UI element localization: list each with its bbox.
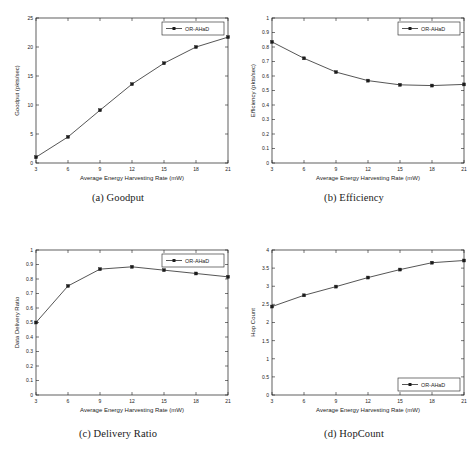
y-tick-label: 10 [27, 102, 33, 108]
y-tick-label: 0.4 [26, 334, 33, 340]
data-point-marker [227, 36, 230, 39]
plot-delivery-ratio: 3691215182100.10.20.30.40.50.60.70.80.91… [0, 232, 236, 428]
legend-marker-icon [409, 383, 412, 386]
x-tick-label: 9 [335, 166, 338, 172]
data-point-marker [35, 156, 38, 159]
y-tick-label: 15 [27, 73, 33, 79]
x-tick-label: 6 [303, 166, 306, 172]
y-tick-label: 0.3 [26, 348, 33, 354]
x-tick-label: 3 [35, 166, 38, 172]
x-tick-label: 12 [365, 398, 371, 404]
data-point-marker [431, 261, 434, 264]
plot-frame [272, 18, 464, 163]
x-tick-label: 3 [35, 398, 38, 404]
x-tick-label: 18 [193, 166, 199, 172]
data-point-marker [463, 83, 466, 86]
legend-label: OR-AHaD [421, 382, 445, 388]
x-tick-label: 18 [429, 166, 435, 172]
x-tick-label: 9 [335, 398, 338, 404]
x-tick-label: 9 [99, 398, 102, 404]
y-tick-label: 0.1 [26, 377, 33, 383]
y-tick-label: 1.5 [262, 338, 269, 344]
x-tick-label: 18 [193, 398, 199, 404]
series-line [36, 37, 228, 157]
panel-delivery-ratio: 3691215182100.10.20.30.40.50.60.70.80.91… [0, 232, 236, 467]
y-tick-label: 1 [266, 15, 269, 21]
y-tick-label: 0.8 [262, 44, 269, 50]
y-tick-label: 0 [30, 160, 33, 166]
y-tick-label: 3.5 [262, 265, 269, 271]
y-tick-label: 0.6 [26, 305, 33, 311]
y-tick-label: 0.9 [262, 29, 269, 35]
data-point-marker [67, 284, 70, 287]
x-tick-label: 15 [397, 398, 403, 404]
y-tick-label: 1 [266, 356, 269, 362]
data-point-marker [271, 40, 274, 43]
y-tick-label: 0.1 [262, 145, 269, 151]
chart-legend[interactable]: OR-AHaD [398, 378, 460, 391]
data-point-marker [399, 268, 402, 271]
y-tick-label: 4 [266, 247, 269, 253]
y-tick-label: 0 [266, 160, 269, 166]
data-point-marker [335, 285, 338, 288]
plot-frame [272, 250, 464, 395]
data-point-marker [463, 259, 466, 262]
plot-efficiency: 3691215182100.10.20.30.40.50.60.70.80.91… [236, 0, 472, 196]
x-axis-title: Average Energy Harvesting Rate (mW) [80, 407, 184, 413]
y-tick-label: 0.7 [26, 290, 33, 296]
y-tick-label: 0.3 [262, 116, 269, 122]
y-tick-label: 0 [266, 392, 269, 398]
y-tick-label: 1 [30, 247, 33, 253]
x-tick-label: 15 [161, 166, 167, 172]
panel-goodput: 369121518210510152025Average Energy Harv… [0, 0, 236, 235]
chart-legend[interactable]: OR-AHaD [162, 254, 224, 267]
chart-svg: 3691215182100.10.20.30.40.50.60.70.80.91… [236, 0, 472, 196]
y-tick-label: 0.2 [262, 131, 269, 137]
x-tick-label: 21 [225, 398, 231, 404]
caption-goodput: (a) Goodput [0, 192, 236, 203]
y-tick-label: 5 [30, 131, 33, 137]
y-axis-title: Goodput (pkts/sec) [14, 65, 20, 116]
y-tick-label: 0.9 [26, 261, 33, 267]
data-point-marker [399, 83, 402, 86]
data-point-marker [367, 79, 370, 82]
x-axis-title: Average Energy Harvesting Rate (mW) [316, 175, 420, 181]
y-tick-label: 25 [27, 15, 33, 21]
x-tick-label: 15 [397, 166, 403, 172]
chart-legend[interactable]: OR-AHaD [162, 22, 224, 35]
x-axis-title: Average Energy Harvesting Rate (mW) [316, 407, 420, 413]
chart-legend[interactable]: OR-AHaD [398, 22, 460, 35]
y-tick-label: 2.5 [262, 301, 269, 307]
x-tick-label: 21 [461, 398, 467, 404]
x-tick-label: 21 [225, 166, 231, 172]
x-tick-label: 6 [303, 398, 306, 404]
figure-grid: 369121518210510152025Average Energy Harv… [0, 0, 473, 470]
plot-hopcount: 3691215182100.511.522.533.54Average Ener… [236, 232, 472, 428]
data-point-marker [271, 305, 274, 308]
data-point-marker [303, 57, 306, 60]
caption-hopcount: (d) HopCount [236, 428, 472, 439]
chart-svg: 369121518210510152025Average Energy Harv… [0, 0, 236, 196]
y-tick-label: 0.5 [26, 319, 33, 325]
x-tick-label: 9 [99, 166, 102, 172]
x-tick-label: 12 [365, 166, 371, 172]
plot-frame [36, 250, 228, 395]
chart-svg: 3691215182100.10.20.30.40.50.60.70.80.91… [0, 232, 236, 428]
legend-label: OR-AHaD [421, 26, 445, 32]
y-tick-label: 0.2 [26, 363, 33, 369]
data-point-marker [131, 83, 134, 86]
data-point-marker [99, 268, 102, 271]
caption-efficiency: (b) Efficiency [236, 192, 472, 203]
y-tick-label: 20 [27, 44, 33, 50]
x-tick-label: 21 [461, 166, 467, 172]
y-tick-label: 0.7 [262, 58, 269, 64]
y-tick-label: 0.8 [26, 276, 33, 282]
legend-marker-icon [173, 27, 176, 30]
y-tick-label: 0.4 [262, 102, 269, 108]
y-axis-title: Data Delivery Ratio [14, 296, 20, 348]
plot-goodput: 369121518210510152025Average Energy Harv… [0, 0, 236, 196]
chart-svg: 3691215182100.511.522.533.54Average Ener… [236, 232, 472, 428]
series-line [272, 261, 464, 307]
legend-marker-icon [173, 259, 176, 262]
y-tick-label: 0.6 [262, 73, 269, 79]
